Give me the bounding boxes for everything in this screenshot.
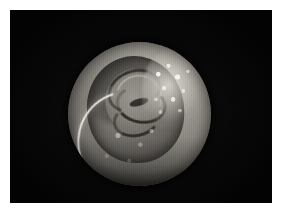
calcite-speckles-lower xyxy=(94,123,174,181)
outer-rim-shading xyxy=(68,42,211,186)
spiral-groove-lower xyxy=(110,99,163,142)
columella-nick xyxy=(128,96,149,109)
bottom-shadow xyxy=(68,137,211,186)
spiral-groove-upper xyxy=(101,62,167,122)
aperture-cavity xyxy=(83,53,187,166)
calcite-speckles-upper-right xyxy=(148,56,205,125)
columella-folds xyxy=(103,67,168,135)
inner-ridge-highlight xyxy=(108,68,170,130)
spiral-groove-middle xyxy=(112,82,169,128)
crescent-arc-glow xyxy=(68,67,211,186)
crescent-arc xyxy=(68,72,204,186)
rim-highlight-upper-right xyxy=(142,48,211,137)
shell-specimen xyxy=(68,42,211,186)
photo-frame xyxy=(0,0,282,218)
scanline-texture xyxy=(68,42,211,186)
aperture-shadow xyxy=(83,53,154,126)
photo-plate xyxy=(10,10,272,203)
